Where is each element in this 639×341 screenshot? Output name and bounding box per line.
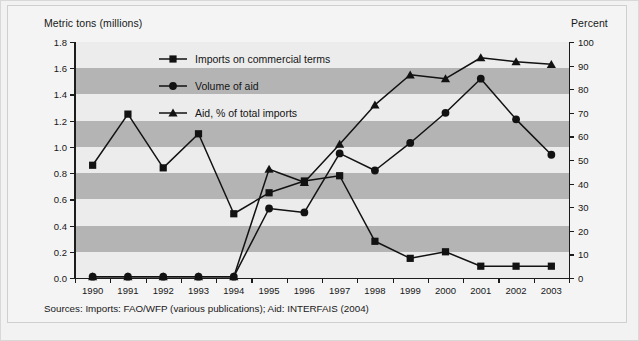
y-axis-left-tick xyxy=(70,42,74,43)
y-axis-left-tick-label: 1.2 xyxy=(54,115,67,126)
y-axis-left-tick-label: 1.6 xyxy=(54,63,67,74)
circle-marker xyxy=(477,75,485,83)
legend-item-label: Imports on commercial terms xyxy=(195,53,330,65)
square-marker xyxy=(89,162,96,169)
figure-frame: Metric tons (millions) Percent 0.00.20.4… xyxy=(7,5,627,323)
y-axis-right-tick xyxy=(570,231,574,232)
x-axis-tick-label: 1998 xyxy=(364,285,385,296)
y-axis-right-tick-label: 10 xyxy=(578,249,589,260)
y-axis-left-tick-label: 1.4 xyxy=(54,89,67,100)
y-axis-left-tick-label: 1.8 xyxy=(54,37,67,48)
circle-marker xyxy=(300,209,308,217)
y-axis-right-tick xyxy=(570,254,574,255)
source-note: Sources: Imports: FAO/WFP (various publi… xyxy=(44,303,369,314)
x-axis-tick xyxy=(181,279,182,283)
x-axis-tick-label: 1993 xyxy=(188,285,209,296)
circle-marker xyxy=(406,139,414,147)
y-axis-left-tick xyxy=(70,226,74,227)
x-axis-tick-label: 1992 xyxy=(153,285,174,296)
y-axis-right-tick xyxy=(570,184,574,185)
y-axis-left-tick xyxy=(70,94,74,95)
y-axis-left-tick-label: 0.2 xyxy=(54,246,67,257)
x-axis-tick xyxy=(75,279,76,283)
x-axis-tick xyxy=(463,279,464,283)
y-axis-right-tick xyxy=(570,207,574,208)
triangle-marker xyxy=(264,165,273,173)
y-axis-right-tick xyxy=(570,160,574,161)
y-axis-left-tick xyxy=(70,199,74,200)
y-axis-left-tick-label: 1.0 xyxy=(54,141,67,152)
x-axis-tick-label: 1991 xyxy=(117,285,138,296)
square-marker xyxy=(265,189,272,196)
legend-item: Volume of aid xyxy=(158,79,330,93)
square-marker xyxy=(512,263,519,270)
y-axis-left-tick xyxy=(70,252,74,253)
y-axis-left-tick-label: 0.4 xyxy=(54,220,67,231)
x-axis-tick xyxy=(357,279,358,283)
y-axis-left-title: Metric tons (millions) xyxy=(44,17,142,29)
square-marker xyxy=(477,263,484,270)
triangle-marker xyxy=(406,70,415,78)
y-axis-left-tick-label: 0.0 xyxy=(54,273,67,284)
circle-marker xyxy=(265,205,273,213)
y-axis-right-tick-label: 30 xyxy=(578,202,589,213)
y-axis-right-tick xyxy=(570,42,574,43)
square-marker xyxy=(169,55,176,62)
square-marker xyxy=(407,255,414,262)
y-axis-left-tick xyxy=(70,173,74,174)
x-axis-tick-label: 1996 xyxy=(294,285,315,296)
y-axis-left-tick xyxy=(70,147,74,148)
legend-glyph xyxy=(158,107,188,119)
y-axis-right-tick-label: 60 xyxy=(578,131,589,142)
x-axis-tick xyxy=(146,279,147,283)
x-axis-tick xyxy=(393,279,394,283)
x-axis-tick-label: 1995 xyxy=(258,285,279,296)
x-axis-tick xyxy=(251,279,252,283)
y-axis-left-tick xyxy=(70,278,74,279)
x-axis-tick-label: 2000 xyxy=(435,285,456,296)
square-marker xyxy=(442,248,449,255)
square-marker xyxy=(160,164,167,171)
x-axis-tick xyxy=(534,279,535,283)
y-axis-right-tick xyxy=(570,136,574,137)
x-axis-tick-label: 2001 xyxy=(470,285,491,296)
y-axis-right-tick-label: 80 xyxy=(578,84,589,95)
y-axis-right-tick xyxy=(570,278,574,279)
circle-marker xyxy=(512,115,520,123)
series-line xyxy=(93,114,552,266)
x-axis-tick xyxy=(216,279,217,283)
figure-page: Metric tons (millions) Percent 0.00.20.4… xyxy=(0,0,639,341)
square-marker xyxy=(195,130,202,137)
square-marker xyxy=(336,172,343,179)
legend-glyph xyxy=(158,53,188,65)
y-axis-right-tick xyxy=(570,66,574,67)
square-marker xyxy=(371,238,378,245)
legend-glyph xyxy=(158,80,188,92)
y-axis-left-tick-label: 0.8 xyxy=(54,168,67,179)
square-marker xyxy=(230,210,237,217)
x-axis-tick xyxy=(322,279,323,283)
y-axis-left-tick xyxy=(70,68,74,69)
y-axis-left-tick xyxy=(70,121,74,122)
y-axis-right-tick-label: 90 xyxy=(578,60,589,71)
y-axis-right-tick-label: 0 xyxy=(578,273,583,284)
x-axis-tick xyxy=(428,279,429,283)
x-axis-tick-label: 2003 xyxy=(541,285,562,296)
x-axis-tick-label: 2002 xyxy=(505,285,526,296)
y-axis-right-tick-label: 100 xyxy=(578,37,594,48)
circle-marker xyxy=(169,82,177,90)
y-axis-right-tick xyxy=(570,89,574,90)
legend-item: Imports on commercial terms xyxy=(158,52,330,66)
y-axis-right-tick-label: 70 xyxy=(578,107,589,118)
square-marker xyxy=(548,263,555,270)
legend-item-label: Volume of aid xyxy=(195,80,259,92)
circle-marker xyxy=(442,109,450,117)
y-axis-right-tick xyxy=(570,113,574,114)
y-axis-right-tick-label: 40 xyxy=(578,178,589,189)
x-axis-tick xyxy=(110,279,111,283)
y-axis-right-title: Percent xyxy=(571,17,608,29)
x-axis-tick xyxy=(569,279,570,283)
x-axis-tick-label: 1990 xyxy=(82,285,103,296)
square-marker xyxy=(124,111,131,118)
triangle-marker xyxy=(476,53,485,61)
